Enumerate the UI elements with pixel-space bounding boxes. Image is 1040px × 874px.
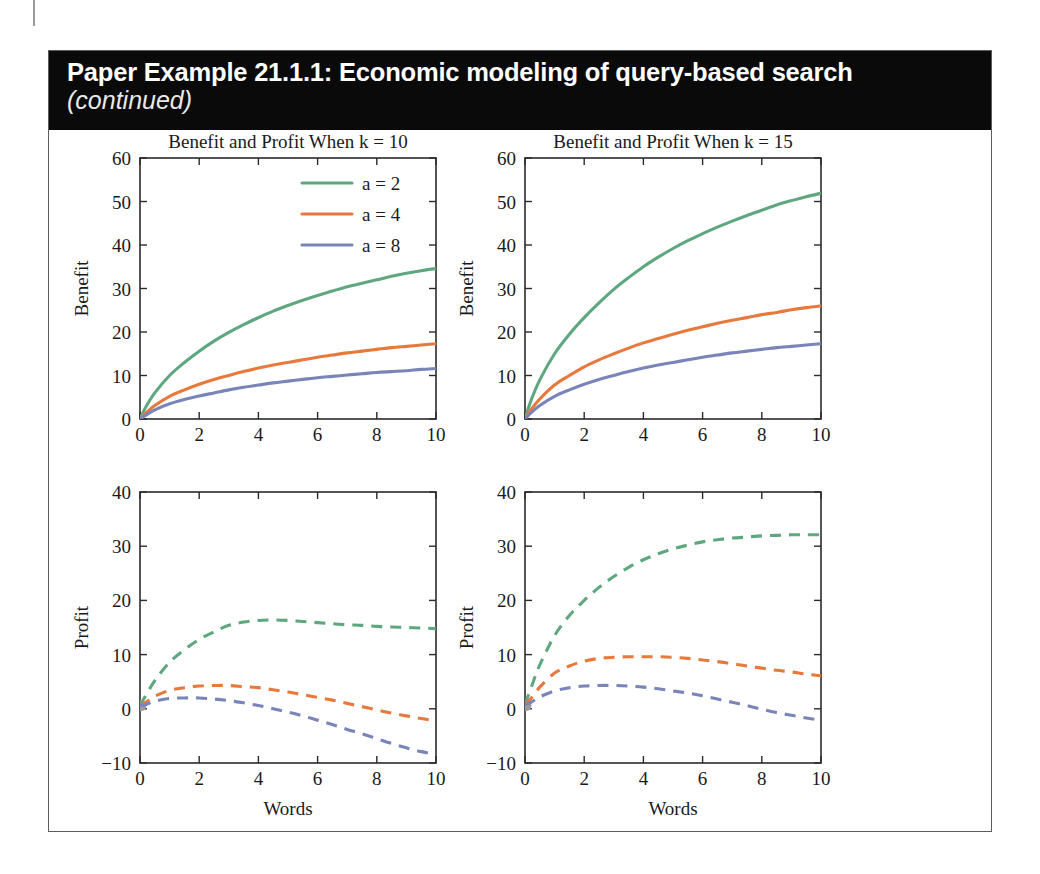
series-profit-k10-a=4 bbox=[140, 685, 436, 720]
x-tick-label: 10 bbox=[812, 768, 831, 789]
x-tick-label: 2 bbox=[194, 424, 204, 445]
example-title: Paper Example 21.1.1: Economic modeling … bbox=[67, 57, 991, 87]
series-group-profit-k10 bbox=[136, 620, 437, 754]
example-subtitle: (continued) bbox=[67, 86, 991, 114]
y-axis-title-benefit-k10: Benefit bbox=[71, 260, 92, 317]
y-tick-label: 40 bbox=[112, 482, 131, 503]
axis-frame-profit-k15 bbox=[525, 492, 821, 763]
chart-panel-profit-k10: 0246810−10010203040ProfitWords bbox=[71, 482, 446, 819]
x-tick-label: 0 bbox=[520, 424, 530, 445]
legend-label-a=8: a = 8 bbox=[362, 235, 400, 256]
x-tick-label: 10 bbox=[427, 424, 446, 445]
y-tick-label: 20 bbox=[112, 322, 131, 343]
chart-panel-benefit-k15: Benefit and Profit When k = 150246810010… bbox=[456, 131, 831, 445]
x-axis-title-profit-k10: Words bbox=[263, 798, 312, 819]
series-benefit-k15-a=8 bbox=[525, 344, 821, 419]
series-group-benefit-k10 bbox=[140, 268, 436, 419]
y-tick-label: 10 bbox=[112, 366, 131, 387]
y-tick-label: 10 bbox=[112, 645, 131, 666]
y-axis-title-benefit-k15: Benefit bbox=[456, 260, 477, 317]
x-axis-title-profit-k15: Words bbox=[648, 798, 697, 819]
y-tick-label: 30 bbox=[112, 279, 131, 300]
y-tick-label: 0 bbox=[507, 409, 517, 430]
x-tick-label: 2 bbox=[579, 768, 589, 789]
series-benefit-k10-a=8 bbox=[140, 369, 436, 419]
x-tick-label: 4 bbox=[254, 424, 264, 445]
series-benefit-k15-a=2 bbox=[525, 193, 821, 419]
legend-label-a=4: a = 4 bbox=[362, 204, 401, 225]
y-tick-label: 20 bbox=[112, 590, 131, 611]
x-tick-label: 8 bbox=[757, 768, 767, 789]
example-header-banner: Paper Example 21.1.1: Economic modeling … bbox=[49, 51, 991, 130]
x-tick-label: 4 bbox=[254, 768, 264, 789]
y-tick-label: 30 bbox=[497, 536, 516, 557]
series-profit-k15-a=8 bbox=[525, 685, 821, 720]
series-group-benefit-k15 bbox=[525, 193, 821, 419]
x-tick-label: 10 bbox=[812, 424, 831, 445]
y-tick-label: 30 bbox=[112, 536, 131, 557]
x-tick-label: 6 bbox=[313, 424, 323, 445]
x-tick-label: 4 bbox=[639, 424, 649, 445]
y-tick-label: 20 bbox=[497, 590, 516, 611]
y-tick-label: 10 bbox=[497, 366, 516, 387]
y-tick-label: 20 bbox=[497, 322, 516, 343]
y-tick-label: −10 bbox=[486, 753, 516, 774]
legend-label-a=2: a = 2 bbox=[362, 173, 400, 194]
y-tick-label: 40 bbox=[497, 235, 516, 256]
chart-title-benefit-k10: Benefit and Profit When k = 10 bbox=[168, 131, 407, 152]
x-tick-label: 8 bbox=[372, 768, 382, 789]
y-tick-label: 0 bbox=[507, 699, 517, 720]
y-axis-title-profit-k15: Profit bbox=[456, 605, 477, 649]
y-tick-label: 0 bbox=[122, 409, 132, 430]
series-group-profit-k15 bbox=[521, 535, 822, 720]
y-tick-label: 10 bbox=[497, 645, 516, 666]
x-tick-label: 0 bbox=[520, 768, 530, 789]
x-tick-label: 6 bbox=[313, 768, 323, 789]
x-tick-label: 10 bbox=[427, 768, 446, 789]
page-edge-mark bbox=[33, 0, 35, 26]
x-tick-label: 2 bbox=[579, 424, 589, 445]
x-tick-label: 0 bbox=[135, 424, 145, 445]
figure-container: Paper Example 21.1.1: Economic modeling … bbox=[48, 50, 992, 832]
y-tick-label: 40 bbox=[497, 482, 516, 503]
x-tick-label: 8 bbox=[372, 424, 382, 445]
series-profit-k15-a=2 bbox=[525, 535, 821, 705]
y-tick-label: 50 bbox=[112, 192, 131, 213]
chart-title-benefit-k15: Benefit and Profit When k = 15 bbox=[553, 131, 792, 152]
chart-panel-profit-k15: 0246810−10010203040ProfitWords bbox=[456, 482, 831, 819]
y-tick-label: −10 bbox=[101, 753, 131, 774]
series-profit-k10-a=8 bbox=[140, 698, 436, 754]
y-axis-title-profit-k10: Profit bbox=[71, 605, 92, 649]
series-profit-k15-a=4 bbox=[525, 657, 821, 705]
x-tick-label: 4 bbox=[639, 768, 649, 789]
x-tick-label: 8 bbox=[757, 424, 767, 445]
y-tick-label: 60 bbox=[497, 148, 516, 169]
y-tick-label: 40 bbox=[112, 235, 131, 256]
legend: a = 2a = 4a = 8 bbox=[302, 173, 401, 256]
y-tick-label: 50 bbox=[497, 192, 516, 213]
axis-frame-benefit-k15 bbox=[525, 158, 821, 419]
multi-panel-chart: Benefit and Profit When k = 100246810010… bbox=[49, 130, 993, 830]
x-tick-label: 2 bbox=[194, 768, 204, 789]
y-tick-label: 30 bbox=[497, 279, 516, 300]
figure-plot-area: Benefit and Profit When k = 100246810010… bbox=[49, 130, 991, 831]
series-benefit-k10-a=2 bbox=[140, 268, 436, 419]
y-tick-label: 60 bbox=[112, 148, 131, 169]
y-tick-label: 0 bbox=[122, 699, 132, 720]
x-tick-label: 6 bbox=[698, 768, 708, 789]
x-tick-label: 0 bbox=[135, 768, 145, 789]
x-tick-label: 6 bbox=[698, 424, 708, 445]
